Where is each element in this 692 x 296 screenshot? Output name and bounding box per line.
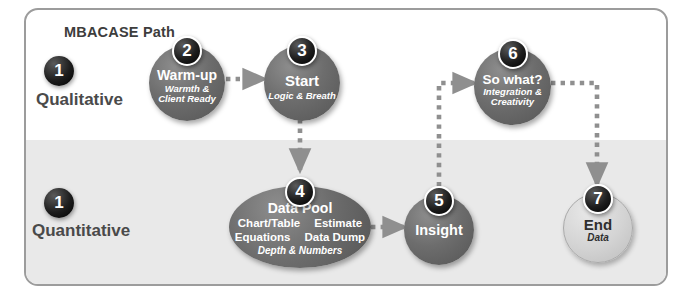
node-data-pool-item-estimate: Estimate — [314, 217, 362, 230]
node-insight-title: Insight — [415, 223, 463, 238]
node-data-pool-row-1: Chart/Table Estimate — [238, 217, 362, 230]
node-end-number: 7 — [583, 184, 613, 214]
node-end-title: End — [584, 217, 612, 232]
phase-badge-qualitative: 1 — [44, 56, 74, 86]
node-start-number: 3 — [287, 36, 317, 66]
diagram-canvas: MBACASE Path 1 Qualitative 1 Quantitativ… — [0, 0, 692, 296]
node-data-pool-item-chart-table: Chart/Table — [238, 217, 300, 230]
node-so-what-number: 6 — [498, 39, 528, 69]
node-insight-number: 5 — [424, 186, 454, 216]
node-end-sub-1: Data — [587, 233, 609, 244]
connector-sowhat-to-end — [551, 83, 597, 184]
node-data-pool-row-2: Equations Data Dump — [235, 231, 365, 244]
node-data-pool-number: 4 — [285, 177, 315, 207]
node-data-pool-item-equations: Equations — [235, 231, 291, 244]
node-start-sub-1: Logic & Breath — [268, 91, 336, 101]
node-so-what-sub-2: Creativity — [491, 97, 534, 107]
node-warm-up-sub-2: Client Ready — [158, 94, 216, 104]
node-so-what-title: So what? — [483, 73, 543, 87]
node-warm-up-number: 2 — [172, 36, 202, 66]
node-warm-up-title: Warm-up — [157, 68, 217, 82]
node-start-title: Start — [285, 73, 319, 88]
phase-badge-quantitative: 1 — [44, 188, 74, 218]
node-data-pool-sub-1: Depth & Numbers — [258, 246, 342, 257]
phase-label-qualitative: Qualitative — [36, 90, 123, 110]
node-data-pool-item-data-dump: Data Dump — [304, 231, 365, 244]
phase-label-quantitative: Quantitative — [32, 221, 130, 241]
connector-insight-to-sowhat — [439, 83, 474, 196]
